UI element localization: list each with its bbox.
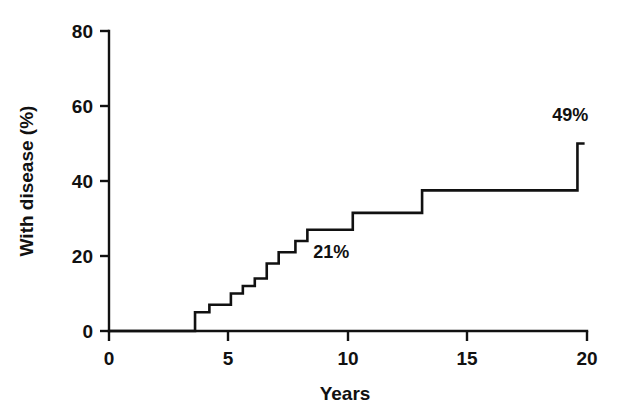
- chart-container: 80 60 40 20 0 0 5 10 15 20 Years With di…: [0, 0, 627, 418]
- y-axis-title: With disease (%): [16, 106, 37, 257]
- x-tick-label-20: 20: [576, 348, 597, 369]
- y-tick-label-0: 0: [82, 321, 93, 342]
- x-tick-label-5: 5: [223, 348, 234, 369]
- y-tick-label-80: 80: [72, 21, 93, 42]
- annotation-21-percent: 21%: [313, 242, 349, 262]
- y-tick-label-40: 40: [72, 171, 93, 192]
- chart-background: [0, 0, 627, 418]
- x-tick-label-15: 15: [456, 348, 478, 369]
- y-tick-label-20: 20: [72, 246, 93, 267]
- annotation-49-percent: 49%: [552, 105, 588, 125]
- x-tick-label-0: 0: [104, 348, 115, 369]
- step-chart: 80 60 40 20 0 0 5 10 15 20 Years With di…: [0, 0, 627, 418]
- x-axis-title: Years: [320, 383, 371, 404]
- x-tick-label-10: 10: [337, 348, 358, 369]
- y-tick-label-60: 60: [72, 96, 93, 117]
